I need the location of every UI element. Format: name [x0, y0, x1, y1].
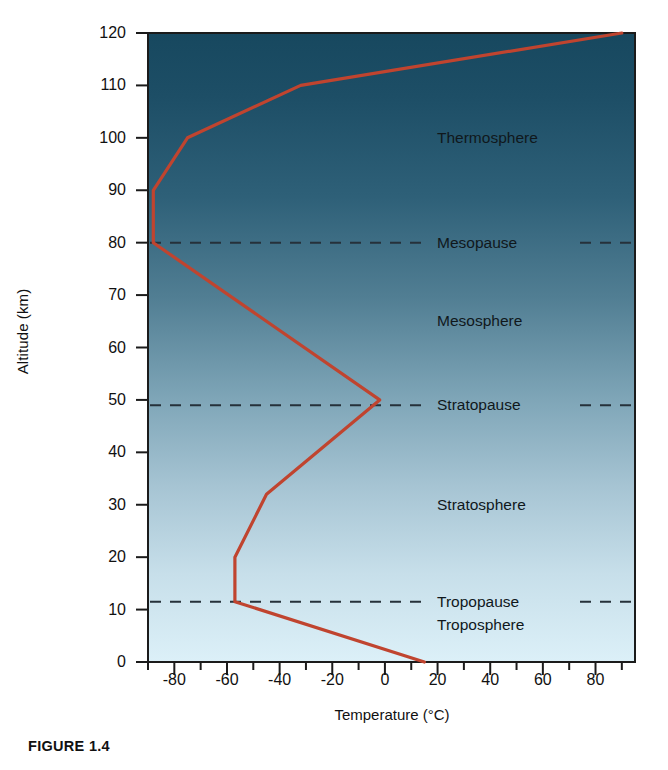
x-axis-tick-label: 20	[429, 672, 447, 688]
layer-label-mesosphere: Mesosphere	[437, 313, 522, 329]
x-axis-tick-label: -20	[321, 672, 344, 688]
x-axis-title: Temperature (°C)	[148, 706, 636, 723]
plot-background	[148, 33, 635, 662]
x-axis-tick-label: -40	[268, 672, 291, 688]
x-axis-tick-label: -60	[215, 672, 238, 688]
x-axis-tick-label: 40	[481, 672, 499, 688]
figure-caption: FIGURE 1.4	[28, 738, 110, 754]
layer-label-stratosphere: Stratosphere	[437, 497, 526, 513]
layer-label-thermosphere: Thermosphere	[437, 130, 538, 146]
x-axis-tick-label: 0	[380, 672, 389, 688]
layer-label-stratopause: Stratopause	[437, 397, 521, 413]
plot-canvas	[0, 0, 668, 770]
y-axis-ticks	[136, 33, 148, 662]
layer-label-troposphere: Troposphere	[437, 617, 524, 633]
x-axis-tick-label: 60	[534, 672, 552, 688]
x-axis-tick-label: -80	[163, 672, 186, 688]
layer-label-mesopause: Mesopause	[437, 235, 517, 251]
x-axis-tick-label: 80	[587, 672, 605, 688]
figure-root: Altitude (km) 01020304050607080901001101…	[0, 0, 668, 770]
layer-label-tropopause: Tropopause	[437, 594, 519, 610]
